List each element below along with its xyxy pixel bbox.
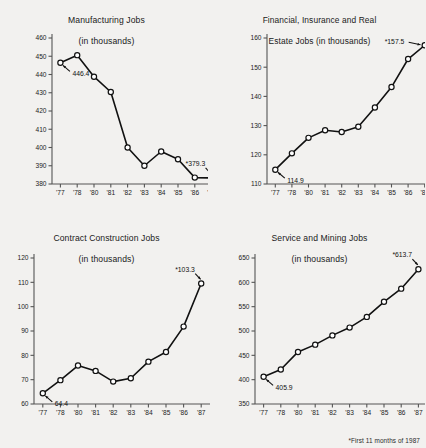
- data-point: [422, 43, 425, 48]
- y-tick-label: 400: [35, 144, 46, 151]
- x-tick-label: '85: [162, 409, 171, 416]
- data-point: [125, 145, 130, 150]
- x-tick-label: '86: [191, 189, 200, 196]
- line-chart-svg: 160150140130120110'77'78'80'81'82'83'84'…: [235, 26, 425, 216]
- data-point: [339, 129, 344, 134]
- y-tick-label: 450: [35, 53, 46, 60]
- y-tick-label: 430: [35, 89, 46, 96]
- plot-area: 650600550500450400350'77'78'80'81'82'83'…: [223, 244, 425, 440]
- x-tick-label: '81: [321, 189, 330, 196]
- y-tick-label: 130: [250, 122, 261, 129]
- x-tick-label: '78: [277, 409, 286, 416]
- data-point: [278, 367, 283, 372]
- first-value-label: 405.9: [276, 384, 293, 391]
- data-point: [58, 378, 63, 383]
- x-tick-label: '77: [271, 189, 280, 196]
- data-point: [175, 157, 180, 162]
- data-point: [306, 135, 311, 140]
- plot-area: 460450440430420410400390380'77'78'80'81'…: [22, 26, 208, 216]
- y-tick-label: 150: [250, 64, 261, 71]
- y-tick-label: 60: [21, 400, 29, 407]
- data-point: [75, 53, 80, 58]
- plot-area: 160150140130120110'77'78'80'81'82'83'84'…: [235, 26, 425, 216]
- x-tick-label: '83: [354, 189, 363, 196]
- x-tick-label: '85: [380, 409, 389, 416]
- x-tick-label: '78: [73, 189, 82, 196]
- chart-panel-manufacturing-jobs: Manufacturing Jobs (in thousands) 460450…: [0, 0, 213, 218]
- x-tick-label: '83: [127, 409, 136, 416]
- x-tick-label: '78: [288, 189, 297, 196]
- y-tick-label: 110: [18, 279, 29, 286]
- data-point: [91, 74, 96, 79]
- x-tick-label: '86: [404, 189, 413, 196]
- x-tick-label: '81: [91, 409, 100, 416]
- y-tick-label: 140: [250, 93, 261, 100]
- data-point: [347, 325, 352, 330]
- x-tick-label: '86: [179, 409, 188, 416]
- last-value-label: *157.5: [385, 38, 405, 45]
- last-value-label: *379.3: [186, 160, 206, 167]
- data-point: [75, 363, 80, 368]
- x-tick-label: '87: [420, 189, 425, 196]
- chart-title-line1: Manufacturing Jobs: [68, 15, 145, 25]
- data-point: [289, 151, 294, 156]
- y-tick-label: 70: [21, 376, 29, 383]
- chart-panel-service-and-mining-jobs: Service and Mining Jobs (in thousands) 6…: [213, 218, 426, 436]
- data-line: [275, 45, 424, 169]
- data-point: [108, 89, 113, 94]
- x-tick-label: '82: [337, 189, 346, 196]
- x-tick-label: '77: [39, 409, 48, 416]
- data-point: [40, 391, 45, 396]
- y-tick-label: 390: [35, 162, 46, 169]
- data-point: [399, 286, 404, 291]
- y-tick-label: 440: [35, 71, 46, 78]
- annotation-arrow: [195, 274, 200, 280]
- x-tick-label: '87: [414, 409, 423, 416]
- data-point: [163, 349, 168, 354]
- annotation-arrow: [63, 65, 70, 71]
- annotation-arrow: [206, 168, 208, 174]
- data-point: [372, 105, 377, 110]
- footnote: *First 11 months of 1987: [348, 437, 420, 444]
- plot-area: 12011010090807060'77'78'80'81'82'83'84'8…: [6, 244, 210, 440]
- y-tick-label: 410: [35, 126, 46, 133]
- x-tick-label: '84: [144, 409, 153, 416]
- data-point: [313, 342, 318, 347]
- x-tick-label: '84: [363, 409, 372, 416]
- data-point: [111, 379, 116, 384]
- annotation-arrow: [412, 259, 417, 265]
- chart-panel-contract-construction-jobs: Contract Construction Jobs (in thousands…: [0, 218, 213, 436]
- data-point: [323, 128, 328, 133]
- chart-title-line1: Financial, Insurance and Real: [263, 15, 377, 25]
- data-line: [43, 284, 201, 394]
- data-point: [389, 84, 394, 89]
- y-tick-label: 90: [21, 327, 29, 334]
- chart-title-line1: Contract Construction Jobs: [53, 233, 159, 243]
- x-tick-label: '80: [304, 189, 313, 196]
- x-tick-label: '87: [207, 189, 208, 196]
- y-tick-label: 350: [238, 400, 249, 407]
- data-point: [93, 368, 98, 373]
- chart-title-line1: Service and Mining Jobs: [272, 233, 368, 243]
- annotation-arrow: [409, 42, 421, 45]
- y-tick-label: 110: [251, 180, 262, 187]
- x-tick-label: '80: [90, 189, 99, 196]
- data-point: [58, 60, 63, 65]
- x-tick-label: '80: [74, 409, 83, 416]
- x-tick-label: '77: [259, 409, 268, 416]
- annotation-arrow: [45, 396, 52, 402]
- data-point: [181, 324, 186, 329]
- y-tick-label: 160: [250, 34, 261, 41]
- x-tick-label: '86: [397, 409, 406, 416]
- x-tick-label: '83: [345, 409, 354, 416]
- y-tick-label: 420: [35, 107, 46, 114]
- x-tick-label: '83: [140, 189, 149, 196]
- data-point: [128, 376, 133, 381]
- x-tick-label: '81: [311, 409, 320, 416]
- data-point: [364, 314, 369, 319]
- annotation-arrow: [266, 379, 273, 385]
- line-chart-svg: 460450440430420410400390380'77'78'80'81'…: [22, 26, 208, 216]
- last-value-label: *613.7: [392, 251, 412, 258]
- x-tick-label: '87: [197, 409, 206, 416]
- x-tick-label: '80: [294, 409, 303, 416]
